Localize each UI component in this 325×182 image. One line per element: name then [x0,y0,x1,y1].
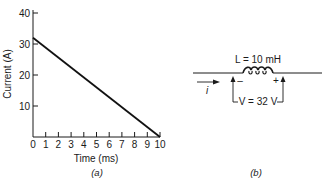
x-tick-label: 3 [68,139,74,150]
x-tick-label: 5 [94,139,100,150]
x-tick-label: 0 [30,139,36,150]
x-tick-label: 7 [119,139,125,150]
y-tick-label: 30 [19,39,31,50]
voltage-arrow-right-icon [281,76,286,82]
x-tick-label: 10 [154,139,166,150]
voltage-label: V = 32 V [239,96,278,107]
figure: 10203040 012345678910 Time (ms) Current … [0,0,325,182]
current-line [33,38,160,137]
x-tick-label: 2 [56,139,62,150]
current-label: i [206,85,209,96]
x-tick-label: 8 [132,139,138,150]
x-axis-title: Time (ms) [74,153,119,164]
minus-sign: – [237,75,243,86]
x-tick-label: 4 [81,139,87,150]
x-tick-label: 9 [145,139,151,150]
plus-sign: + [273,75,279,86]
voltage-arrow-left-icon [231,76,236,82]
chart-a: 10203040 012345678910 Time (ms) Current … [2,8,166,179]
circuit-b: L = 10 mH i – + V = 32 V (b) [193,54,322,178]
x-tick-label: 1 [43,139,49,150]
y-tick-label: 10 [19,101,31,112]
inductor-icon [243,67,273,73]
y-tick-label: 20 [19,70,31,81]
caption-a: (a) [91,167,103,178]
inductor-loops-icon [249,71,266,74]
inductor-label: L = 10 mH [235,54,281,65]
y-axis-title: Current (A) [2,49,13,98]
y-ticks: 10203040 [19,8,38,112]
y-tick-label: 40 [19,8,31,19]
x-tick-label: 6 [106,139,112,150]
current-arrow-icon [213,80,220,85]
caption-b: (b) [250,167,262,178]
x-ticks: 012345678910 [30,132,166,150]
